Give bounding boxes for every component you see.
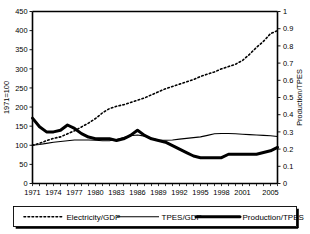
x-tick-label: 1998 bbox=[213, 188, 229, 197]
y-tick-label: 0 bbox=[23, 179, 27, 188]
y-tick-label: 50 bbox=[19, 160, 27, 169]
y-tick-label: 150 bbox=[15, 122, 27, 131]
x-tick-label: 2005 bbox=[262, 188, 278, 197]
x-tick-label: 1983 bbox=[108, 188, 124, 197]
x-tick-label: 1989 bbox=[150, 188, 166, 197]
x-tick-label: 1974 bbox=[45, 188, 61, 197]
axis-titles: 1971=100Production/TPES bbox=[2, 69, 305, 126]
x-tick-label: 1971 bbox=[24, 188, 40, 197]
x-tick-label: 1980 bbox=[87, 188, 103, 197]
chart-legend: Electricity/GDPTPES/GDPProduction/TPES bbox=[14, 207, 304, 229]
x-tick-label: 1977 bbox=[66, 188, 82, 197]
x-tick-label: 2001 bbox=[234, 188, 250, 197]
x-tick-label: 1992 bbox=[171, 188, 187, 197]
y2-tick-label: 0.8 bbox=[283, 42, 293, 51]
y-tick-label: 350 bbox=[15, 45, 27, 54]
y2-tick-label: 0 bbox=[283, 179, 287, 188]
y-tick-label: 250 bbox=[15, 84, 27, 93]
y-tick-label: 200 bbox=[15, 103, 27, 112]
x-axis-ticks: 1971197419771980198319861989199219951998… bbox=[24, 184, 278, 198]
y-tick-label: 400 bbox=[15, 26, 27, 35]
y2-tick-label: 0.9 bbox=[283, 24, 293, 33]
line-chart: 050100150200250300350400450 00.10.20.30.… bbox=[0, 0, 310, 234]
y2-tick-label: 1 bbox=[283, 7, 287, 16]
y-axis-right-title: Production/TPES bbox=[295, 69, 304, 126]
y-tick-label: 100 bbox=[15, 141, 27, 150]
data-series-group bbox=[33, 31, 278, 158]
y2-tick-label: 0.6 bbox=[283, 76, 293, 85]
y-axis-left-ticks: 050100150200250300350400450 bbox=[15, 7, 32, 188]
legend-label-electricity-gdp: Electricity/GDP bbox=[67, 213, 121, 222]
series-line-production-tpes bbox=[33, 118, 278, 158]
y2-tick-label: 0.2 bbox=[283, 145, 293, 154]
y2-tick-label: 0.3 bbox=[283, 128, 293, 137]
chart-container: 050100150200250300350400450 00.10.20.30.… bbox=[0, 0, 310, 234]
y2-tick-label: 0.4 bbox=[283, 110, 293, 119]
y-tick-label: 300 bbox=[15, 65, 27, 74]
y2-tick-label: 0.5 bbox=[283, 93, 293, 102]
x-tick-label: 1986 bbox=[129, 188, 145, 197]
y-tick-label: 450 bbox=[15, 7, 27, 16]
series-line-electricity-gdp bbox=[33, 31, 278, 146]
y2-tick-label: 0.7 bbox=[283, 59, 293, 68]
y-axis-left-title: 1971=100 bbox=[2, 81, 11, 114]
y2-tick-label: 0.1 bbox=[283, 162, 293, 171]
legend-label-production-tpes: Production/TPES bbox=[243, 213, 304, 222]
y-axis-right-ticks: 00.10.20.30.40.50.60.70.80.91 bbox=[278, 7, 294, 188]
x-tick-label: 1995 bbox=[192, 188, 208, 197]
plot-frame bbox=[33, 12, 278, 184]
